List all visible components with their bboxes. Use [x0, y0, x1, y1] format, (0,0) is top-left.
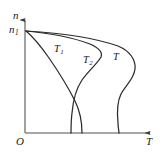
curve-label-t3: T — [113, 52, 119, 64]
curve-t2-subscript: 2 — [89, 59, 92, 66]
n1-subscript: 1 — [15, 29, 19, 37]
figure-container: n n1 T O T1 T2 T — [0, 0, 165, 163]
curve-t1-subscript: 1 — [60, 48, 63, 55]
curve-t3-base: T — [113, 51, 119, 62]
curve-t1-base: T — [54, 43, 60, 54]
origin-label: O — [16, 136, 24, 147]
y-axis-tick-label-n1: n1 — [9, 24, 19, 37]
plot-canvas — [0, 0, 165, 163]
curve-label-t2: T2 — [83, 55, 93, 67]
x-axis-label: T — [146, 136, 152, 147]
y-axis-label: n — [13, 10, 19, 21]
curve-label-t1: T1 — [54, 44, 64, 56]
n1-base: n — [9, 23, 15, 35]
curve-t2-base: T — [83, 54, 89, 65]
